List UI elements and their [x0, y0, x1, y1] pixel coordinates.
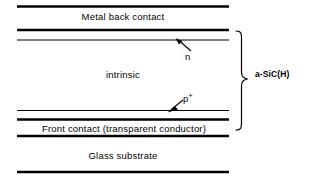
layer-label-intrinsic: intrinsic: [18, 70, 228, 80]
n-dopant-arrow-shaft: [180, 42, 191, 52]
layer-label-metal-back-contact: Metal back contact: [18, 12, 228, 22]
n-dopant-arrow-head: [176, 38, 183, 44]
annotation-label-p-dopant: p+: [183, 94, 193, 104]
diagram-canvas: Metal back contact intrinsic Front conta…: [0, 0, 317, 185]
bracket-label-a-sic-h: a-SiC(H): [255, 70, 289, 79]
layer-label-glass-substrate: Glass substrate: [18, 151, 228, 161]
a-sic-h-brace-icon: [236, 31, 248, 130]
p-dopant-arrow-head: [168, 106, 179, 113]
layer-label-front-contact: Front contact (transparent conductor): [18, 124, 230, 134]
annotation-label-n-dopant: n: [185, 52, 190, 62]
annotation-label-p-dopant-superscript: +: [188, 92, 192, 99]
